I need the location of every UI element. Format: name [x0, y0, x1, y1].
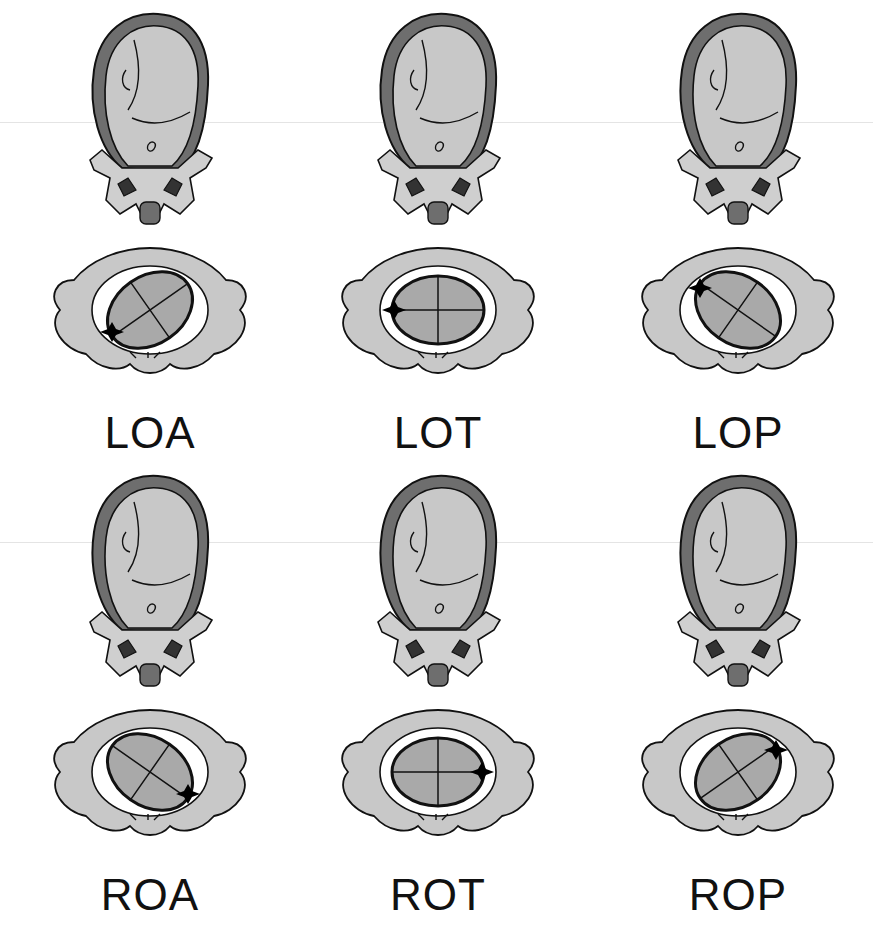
uterus-side-view: [618, 462, 858, 697]
position-label: LOA: [30, 408, 270, 458]
fetus-icon: [393, 26, 486, 166]
position-label: ROP: [618, 870, 858, 920]
fetus-icon: [693, 26, 786, 166]
pelvic-inlet-view: [30, 702, 270, 842]
position-label: ROT: [318, 870, 558, 920]
pelvic-inlet-view: [618, 240, 858, 380]
uterus-side-view: [30, 462, 270, 697]
uterus-side-view: [318, 462, 558, 697]
position-label: ROA: [30, 870, 270, 920]
pelvic-inlet-view: [318, 702, 558, 842]
uterus-side-view: [318, 0, 558, 235]
uterus-side-view: [30, 0, 270, 235]
position-label: LOT: [318, 408, 558, 458]
fetus-icon: [693, 488, 786, 628]
pelvic-inlet-view: [318, 240, 558, 380]
fetus-icon: [105, 488, 198, 628]
position-label: LOP: [618, 408, 858, 458]
pelvic-inlet-view: [30, 240, 270, 380]
fetus-icon: [393, 488, 486, 628]
fetus-icon: [105, 26, 198, 166]
pelvic-inlet-view: [618, 702, 858, 842]
uterus-side-view: [618, 0, 858, 235]
